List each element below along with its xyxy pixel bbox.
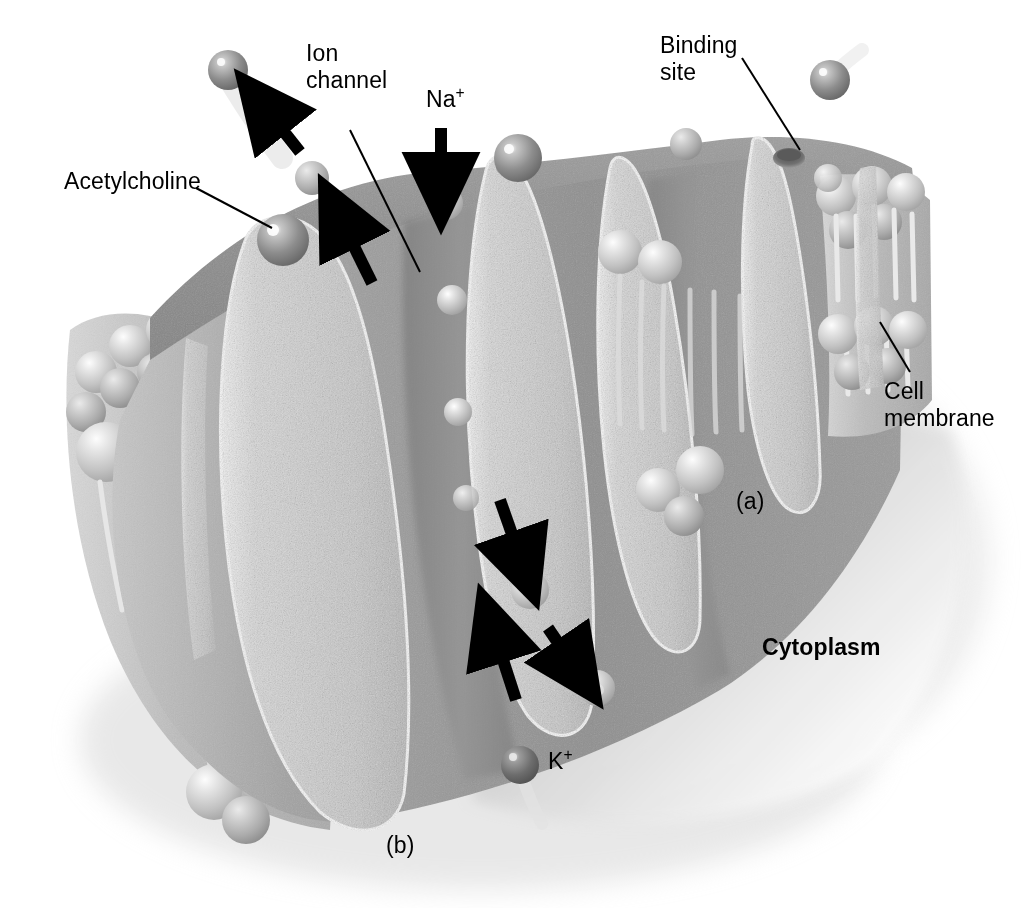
label-panel-a: (a) [736, 488, 764, 515]
label-potassium: K+ [548, 748, 573, 775]
label-cytoplasm: Cytoplasm [762, 634, 880, 661]
label-panel-b: (b) [386, 832, 414, 859]
label-sodium: Na+ [426, 86, 465, 113]
label-acetylcholine: Acetylcholine [64, 168, 201, 195]
acetylcholine-sphere-bound [257, 214, 309, 266]
membrane-illustration [0, 0, 1031, 908]
leader-acetylcholine [196, 188, 272, 228]
leader-binding-site [742, 58, 800, 150]
acetylcholine-sphere-ridge [494, 134, 542, 182]
label-binding-site: Binding site [660, 32, 737, 86]
figure-canvas: Acetylcholine Ion channel Na+ Binding si… [0, 0, 1031, 908]
label-cell-membrane: Cell membrane [884, 378, 995, 432]
binding-site-notch [773, 148, 805, 168]
acetylcholine-sphere-released [208, 50, 282, 158]
label-ion-channel: Ion channel [306, 40, 387, 94]
acetylcholine-sphere-free [810, 50, 862, 100]
